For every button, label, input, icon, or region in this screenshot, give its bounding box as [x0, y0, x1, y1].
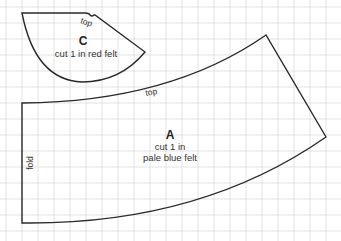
piece-a-fold-label: fold [25, 156, 35, 170]
piece-a-instruction-line2: pale blue felt [143, 152, 197, 163]
grid [0, 0, 341, 241]
pattern-sheet: top C cut 1 in red felt top A cut 1 in p… [0, 0, 341, 241]
piece-a-letter: A [166, 128, 175, 142]
piece-a-instruction-line1: cut 1 in [155, 141, 186, 152]
pattern-piece-a: top A cut 1 in pale blue felt fold [22, 35, 326, 223]
piece-c-instruction: cut 1 in red felt [55, 48, 118, 59]
pattern-diagram: top C cut 1 in red felt top A cut 1 in p… [0, 0, 341, 241]
piece-c-top-label: top [79, 15, 94, 28]
piece-c-letter: C [79, 34, 88, 48]
piece-a-top-label: top [145, 86, 159, 98]
